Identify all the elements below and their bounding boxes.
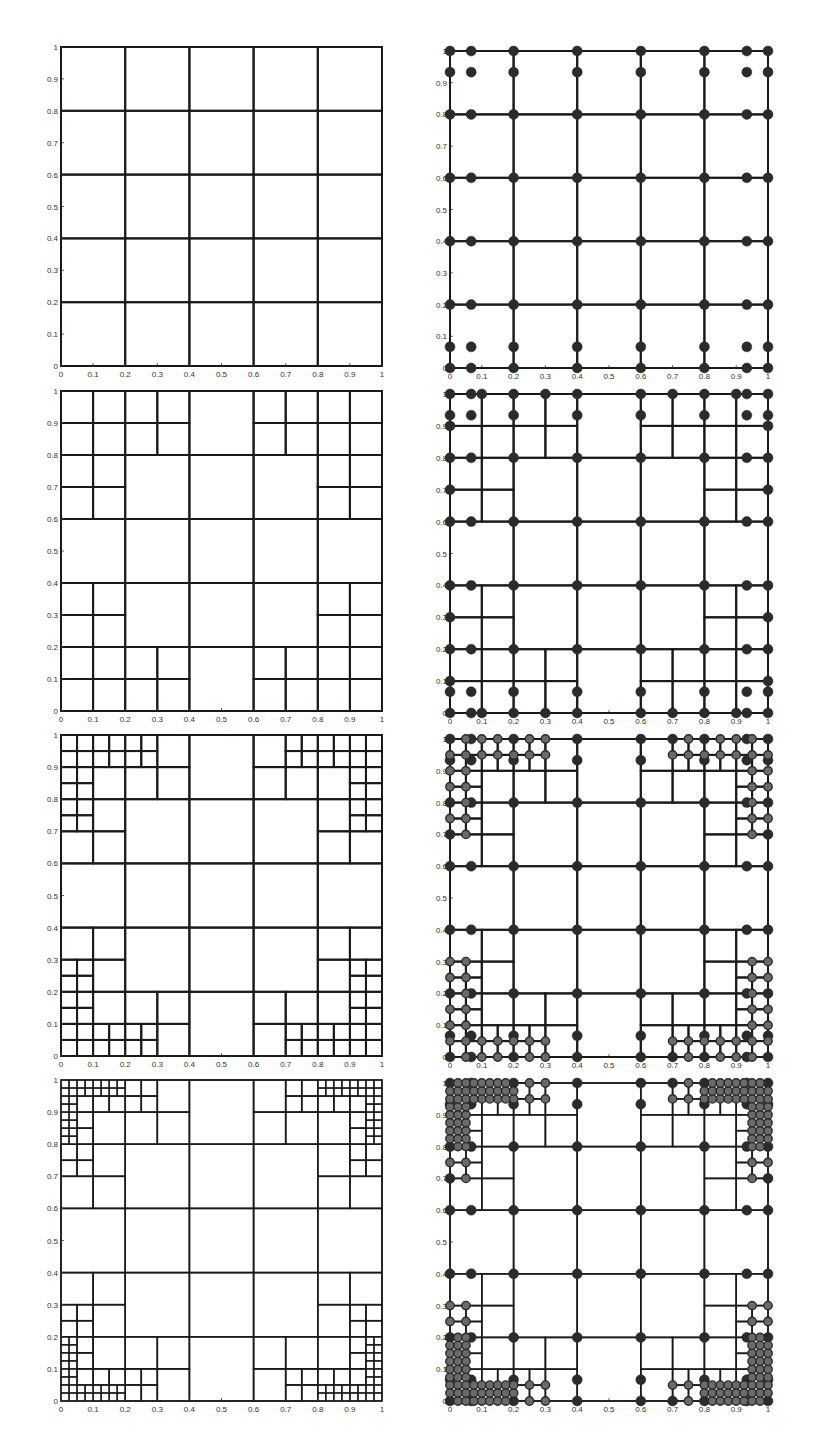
mesh-node (748, 1103, 756, 1111)
mesh-node (494, 1087, 502, 1095)
mesh-node (716, 1381, 724, 1389)
mesh-node (470, 1389, 478, 1397)
mesh-node (742, 1269, 752, 1279)
mesh-node (478, 1397, 486, 1405)
mesh-node (462, 1111, 470, 1119)
mesh-node (764, 1301, 772, 1309)
mesh-node (501, 1381, 509, 1389)
mesh-node (470, 1079, 478, 1087)
mesh-node (462, 1134, 470, 1142)
mesh-node (494, 1381, 502, 1389)
mesh-node (466, 1205, 476, 1215)
mesh-node (748, 1365, 756, 1373)
mesh-node (716, 1095, 724, 1103)
mesh-node (748, 1119, 756, 1127)
mesh-node (454, 1127, 462, 1135)
x-tick-label: 0.1 (476, 1405, 488, 1414)
mesh-node (764, 1357, 772, 1365)
mesh-node (748, 1174, 756, 1182)
mesh-node (716, 1079, 724, 1087)
mesh-node (756, 1341, 764, 1349)
mesh-node (756, 1127, 764, 1135)
mesh-node (732, 1079, 740, 1087)
mesh-node (764, 1365, 772, 1373)
mesh-node (748, 1373, 756, 1381)
mesh-node (764, 1127, 772, 1135)
mesh-node (764, 1134, 772, 1142)
mesh-node (462, 1397, 470, 1405)
mesh-node (454, 1119, 462, 1127)
mesh-node (684, 1095, 692, 1103)
mesh-node (462, 1127, 470, 1135)
mesh-node (764, 1103, 772, 1111)
mesh-node (462, 1174, 470, 1182)
x-tick-label: 0 (448, 1405, 453, 1414)
mesh-node (509, 1389, 517, 1397)
mesh-node (636, 1078, 646, 1088)
mesh-node (748, 1301, 756, 1309)
mesh-node (699, 1142, 709, 1152)
mesh-node (462, 1333, 470, 1341)
mesh-node (462, 1103, 470, 1111)
mesh-node (462, 1349, 470, 1357)
mesh-node (509, 1332, 519, 1342)
mesh-node (756, 1142, 764, 1150)
axes-frame (450, 1083, 768, 1401)
mesh-node (708, 1095, 716, 1103)
mesh-node (572, 1205, 582, 1215)
mesh-node (740, 1095, 748, 1103)
mesh-node (748, 1142, 756, 1150)
mesh-node (454, 1103, 462, 1111)
mesh-node (446, 1341, 454, 1349)
mesh-node (756, 1349, 764, 1357)
mesh-node (724, 1381, 732, 1389)
mesh-node (716, 1397, 724, 1405)
mesh-node (454, 1087, 462, 1095)
mesh-node (764, 1317, 772, 1325)
mesh-node (740, 1397, 748, 1405)
mesh-node (462, 1365, 470, 1373)
mesh-node (494, 1389, 502, 1397)
mesh-node (454, 1341, 462, 1349)
mesh-node (724, 1389, 732, 1397)
mesh-lines (450, 1083, 768, 1401)
mesh-node (724, 1079, 732, 1087)
mesh-node (636, 1269, 646, 1279)
x-tick-label: 0.9 (731, 1405, 743, 1414)
mesh-node (501, 1087, 509, 1095)
mesh-node (445, 1173, 455, 1183)
mesh-node (466, 1269, 476, 1279)
mesh-node (668, 1396, 678, 1406)
mesh-node (756, 1373, 764, 1381)
mesh-node (748, 1158, 756, 1166)
mesh-node (740, 1381, 748, 1389)
mesh-node (494, 1079, 502, 1087)
mesh-node (446, 1158, 454, 1166)
x-tick-label: 0.2 (508, 1405, 520, 1414)
mesh-node (699, 1332, 709, 1342)
mesh-node (470, 1397, 478, 1405)
mesh-node (501, 1397, 509, 1405)
mesh-node (454, 1373, 462, 1381)
mesh-node (454, 1357, 462, 1365)
mesh-node (700, 1381, 708, 1389)
mesh-node (748, 1349, 756, 1357)
mesh-node (764, 1158, 772, 1166)
mesh-node (462, 1087, 470, 1095)
mesh-node (724, 1087, 732, 1095)
mesh-node (724, 1095, 732, 1103)
mesh-node (525, 1095, 533, 1103)
mesh-node (462, 1079, 470, 1087)
mesh-node (716, 1087, 724, 1095)
mesh-node (470, 1095, 478, 1103)
mesh-node (501, 1095, 509, 1103)
mesh-node (541, 1397, 549, 1405)
mesh-node (732, 1397, 740, 1405)
mesh-node (446, 1381, 454, 1389)
mesh-node (446, 1317, 454, 1325)
mesh-node (748, 1127, 756, 1135)
mesh-node (748, 1317, 756, 1325)
mesh-node (764, 1111, 772, 1119)
mesh-node (636, 1375, 646, 1385)
mesh-node (572, 1142, 582, 1152)
